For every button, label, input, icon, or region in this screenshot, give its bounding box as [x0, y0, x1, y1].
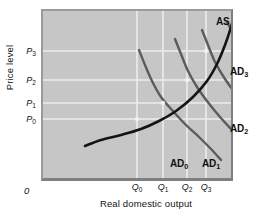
- as-ad-chart: Price level 0 P3P2P1P0 ASAD0AD1AD2AD3 Q0…: [0, 0, 277, 215]
- curve-ad1: [175, 39, 231, 155]
- plot-canvas: [43, 11, 231, 178]
- equilibrium-point-e3: [204, 49, 208, 53]
- x-tick-label-Q2: Q2: [182, 182, 193, 192]
- equilibrium-point-e2: [185, 78, 189, 82]
- equilibrium-point-e0: [135, 117, 139, 121]
- curve-label-ad3: AD3: [230, 66, 248, 77]
- x-tick-label-Q0: Q0: [132, 182, 143, 192]
- curve-label-as: AS: [216, 16, 230, 27]
- y-tick-label-P3: P3: [20, 46, 36, 56]
- origin-label: 0: [24, 185, 29, 196]
- x-axis-title: Real domestic output: [66, 198, 226, 209]
- y-tick-label-P2: P2: [20, 75, 36, 85]
- y-axis-title: Price level: [4, 22, 15, 114]
- curve-label-ad2: AD2: [230, 123, 248, 134]
- plot-area: ASAD0AD1AD2AD3: [41, 9, 233, 181]
- x-tick-label-Q1: Q1: [158, 182, 169, 192]
- y-tick-label-P0: P0: [20, 114, 36, 124]
- curve-label-ad1: AD1: [202, 158, 220, 169]
- x-tick-label-Q3: Q3: [201, 182, 212, 192]
- equilibrium-point-e1: [161, 101, 165, 105]
- y-tick-label-P1: P1: [20, 98, 36, 108]
- curve-label-ad0: AD0: [170, 158, 188, 169]
